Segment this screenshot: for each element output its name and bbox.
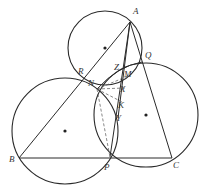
label-R: R (77, 66, 84, 76)
label-C: C (173, 160, 180, 170)
label-P: P (103, 162, 110, 172)
geometry-diagram: ABCPQRNZMXKY (0, 0, 206, 196)
label-X: X (119, 84, 126, 94)
segment-A-C (130, 22, 172, 158)
circle-ARNQ-center-dot (103, 46, 106, 49)
circle-BNP-center-dot (63, 129, 66, 132)
label-Y: Y (116, 113, 122, 123)
label-M: M (123, 69, 132, 79)
label-A: A (132, 6, 139, 16)
circle-NQCP-center-dot (144, 113, 147, 116)
label-N: N (87, 78, 95, 88)
diagram-svg: ABCPQRNZMXKY (0, 0, 206, 196)
label-K: K (117, 100, 125, 110)
label-B: B (9, 154, 15, 164)
label-Q: Q (145, 50, 152, 60)
